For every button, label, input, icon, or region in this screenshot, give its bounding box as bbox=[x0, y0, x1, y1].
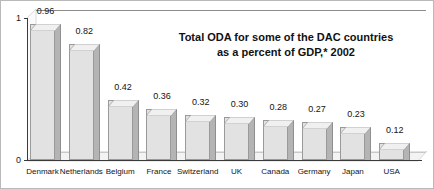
bar-side-face bbox=[94, 44, 100, 160]
bar[interactable] bbox=[185, 115, 210, 160]
bar-group bbox=[224, 117, 255, 160]
bar-group bbox=[108, 100, 139, 160]
x-axis-line bbox=[27, 160, 422, 161]
bar-group bbox=[263, 120, 294, 160]
bar-group bbox=[379, 143, 410, 160]
bar-group bbox=[69, 44, 100, 160]
bar-front-face bbox=[108, 100, 133, 160]
bar-top-face bbox=[108, 93, 139, 100]
bar[interactable] bbox=[379, 143, 404, 160]
bar-top-face bbox=[185, 108, 216, 115]
bar-front-face bbox=[69, 44, 94, 160]
bar-front-face bbox=[146, 109, 171, 160]
bar-top-face bbox=[379, 136, 410, 143]
bar-value-label: 0.32 bbox=[181, 97, 221, 107]
y-axis-line bbox=[27, 18, 28, 161]
y-tick-mark-1 bbox=[24, 18, 28, 19]
bar-group bbox=[302, 122, 333, 160]
bar-value-label: 0.12 bbox=[375, 125, 415, 135]
bar-value-label: 0.96 bbox=[26, 6, 66, 16]
y-tick-mark-0 bbox=[24, 160, 28, 161]
y-axis-tick-label-1: 1 bbox=[3, 13, 21, 23]
bar-front-face bbox=[30, 24, 55, 160]
chart-title: Total ODA for some of the DAC countries … bbox=[150, 30, 422, 60]
bar-side-face bbox=[55, 24, 61, 160]
bar-value-label: 0.82 bbox=[64, 26, 104, 36]
bar-top-face bbox=[224, 110, 255, 117]
bar[interactable] bbox=[340, 127, 365, 160]
bar-group bbox=[185, 115, 216, 160]
bar-value-label: 0.36 bbox=[142, 91, 182, 101]
bar-top-face bbox=[30, 17, 61, 24]
bar-top-face bbox=[263, 113, 294, 120]
bar-top-face bbox=[302, 115, 333, 122]
chart-title-line-2: as a percent of GDP,* 2002 bbox=[150, 45, 422, 60]
bar-top-face bbox=[146, 102, 177, 109]
bar-side-face bbox=[133, 100, 139, 160]
bar[interactable] bbox=[302, 122, 327, 160]
bar[interactable] bbox=[30, 24, 55, 160]
bar-chart-plot-area: 1 0 Total ODA for some of the DAC countr… bbox=[0, 0, 434, 189]
top-gridline bbox=[36, 10, 426, 11]
bar[interactable] bbox=[69, 44, 94, 160]
y-axis-tick-label-0: 0 bbox=[3, 155, 21, 165]
bar-value-label: 0.23 bbox=[336, 109, 376, 119]
bar-group bbox=[30, 24, 61, 160]
bar[interactable] bbox=[108, 100, 133, 160]
bar-top-face bbox=[340, 120, 371, 127]
bar-value-label: 0.30 bbox=[220, 99, 260, 109]
bar[interactable] bbox=[263, 120, 288, 160]
bar-value-label: 0.42 bbox=[103, 82, 143, 92]
bar-value-label: 0.27 bbox=[297, 104, 337, 114]
bar-side-face bbox=[171, 109, 177, 160]
bar-group bbox=[340, 127, 371, 160]
chart-screenshot: 1 0 Total ODA for some of the DAC countr… bbox=[0, 0, 434, 189]
bar-group bbox=[146, 109, 177, 160]
bar-value-label: 0.28 bbox=[258, 102, 298, 112]
bar[interactable] bbox=[224, 117, 249, 160]
x-axis-category-label: USA bbox=[364, 167, 420, 177]
chart-title-line-1: Total ODA for some of the DAC countries bbox=[150, 30, 422, 45]
bar[interactable] bbox=[146, 109, 171, 160]
bar-top-face bbox=[69, 37, 100, 44]
